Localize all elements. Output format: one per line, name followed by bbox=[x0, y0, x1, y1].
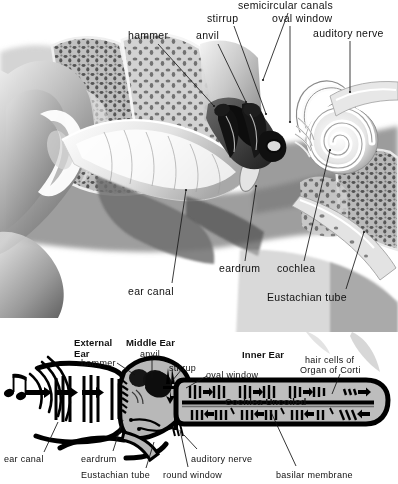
label-semicircular-canals-top: semicircular canals bbox=[238, 0, 333, 12]
label-eustachian-tube-top: Eustachian tube bbox=[267, 292, 347, 304]
heading-cochlea-uncoiled: Cochlea Uncoiled bbox=[225, 396, 306, 408]
label-auditory-nerve-top: auditory nerve bbox=[313, 28, 384, 40]
label-cochlea-top: cochlea bbox=[277, 263, 315, 275]
label-auditory-nerve-bottom: auditory nerve bbox=[191, 454, 252, 464]
label-eustachian-tube-bottom: Eustachian tube bbox=[81, 470, 150, 480]
label-stirrup-bottom: stirrup bbox=[169, 363, 196, 373]
label-eardrum-bottom: eardrum bbox=[81, 454, 117, 464]
label-oval-window-top: oval window bbox=[272, 13, 333, 25]
label-hammer-top: hammer bbox=[128, 30, 168, 42]
ear-anatomy-figure: hammer anvil stirrup semicircular canals… bbox=[0, 0, 398, 484]
label-anvil-top: anvil bbox=[196, 30, 219, 42]
label-eardrum-top: eardrum bbox=[219, 263, 260, 275]
heading-middle-ear: Middle Ear bbox=[126, 337, 175, 349]
label-stirrup-top: stirrup bbox=[207, 13, 238, 25]
label-ear-canal-bottom: ear canal bbox=[4, 454, 44, 464]
label-basilar-membrane-bottom: basilar membrane bbox=[276, 470, 353, 480]
label-ear-canal-top: ear canal bbox=[128, 286, 174, 298]
label-hair-cells-line2: Organ of Corti bbox=[300, 365, 361, 375]
label-round-window-bottom: round window bbox=[163, 470, 222, 480]
ear-cutaway-illustration bbox=[0, 0, 398, 335]
label-hair-cells-line1: hair cells of bbox=[305, 355, 354, 365]
label-hammer-bottom: hammer bbox=[81, 358, 116, 368]
heading-inner-ear: Inner Ear bbox=[242, 349, 284, 361]
label-anvil-bottom: anvil bbox=[140, 349, 160, 359]
heading-external-ear-line1: External bbox=[74, 337, 112, 349]
label-oval-window-bottom: oval window bbox=[206, 370, 258, 380]
